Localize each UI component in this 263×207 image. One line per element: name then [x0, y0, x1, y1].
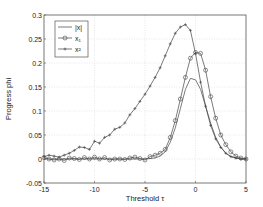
x-tick-label: -10	[89, 186, 99, 193]
x-tick-label: 5	[244, 186, 248, 193]
chart-background	[0, 0, 263, 207]
x-tick-label: 0	[194, 186, 198, 193]
legend-label: |x|	[75, 24, 82, 32]
legend-label: x₁	[75, 35, 82, 42]
y-tick-label: 0.3	[32, 12, 42, 19]
x-axis-label: Threshold τ	[126, 194, 164, 203]
y-tick-label: 0.2	[32, 60, 42, 67]
y-tick-label: 0	[38, 156, 42, 163]
y-tick-label: 0.1	[32, 108, 42, 115]
legend-box	[55, 21, 88, 57]
line-chart: -15-10-505-0.0500.050.10.150.20.250.3 Th…	[0, 0, 263, 207]
y-tick-label: 0.05	[28, 132, 42, 139]
y-axis-label: Progress phi	[4, 78, 13, 120]
y-tick-label: 0.25	[28, 36, 42, 43]
y-tick-label: 0.15	[28, 84, 42, 91]
x-tick-label: -15	[39, 186, 49, 193]
legend-label: x²	[75, 46, 82, 53]
x-tick-label: -5	[142, 186, 148, 193]
legend: |x|x₁x²	[55, 21, 88, 57]
y-tick-label: -0.05	[26, 180, 42, 187]
